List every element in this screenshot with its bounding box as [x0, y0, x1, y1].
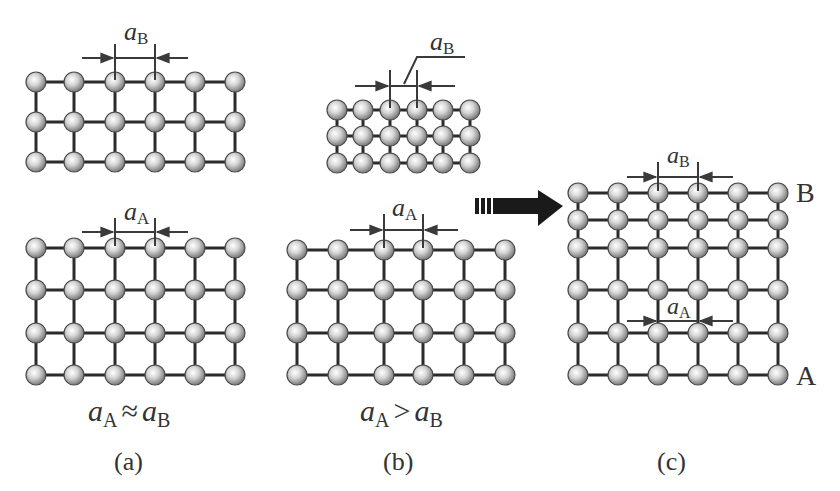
atom-icon — [495, 280, 515, 300]
svg-text:aA: aA — [392, 193, 418, 224]
atom-icon — [688, 365, 708, 385]
spacing-subscript: B — [137, 29, 148, 48]
atom-icon — [225, 238, 245, 258]
panel-a-bottom-spacing-marker: aA — [82, 197, 188, 246]
atom-icon — [64, 238, 84, 258]
atom-icon — [64, 365, 84, 385]
atom-icon — [327, 153, 347, 173]
transition-arrow-icon — [475, 190, 563, 226]
panel-a-relation: aA≈aB — [88, 394, 170, 431]
atom-icon — [728, 365, 748, 385]
atom-icon — [413, 365, 433, 385]
atom-icon — [688, 210, 708, 230]
atom-icon — [768, 280, 788, 300]
panel-a-top-spacing-marker: aB — [82, 17, 188, 80]
atom-icon — [433, 126, 453, 146]
atom-icon — [287, 240, 307, 260]
spacing-subscript: B — [679, 153, 690, 170]
atom-icon — [26, 72, 46, 92]
atom-icon — [225, 72, 245, 92]
atom-icon — [26, 323, 46, 343]
spacing-subscript: A — [405, 205, 418, 224]
panel-b-bottom-spacing-marker: aA — [350, 193, 458, 248]
atom-icon — [728, 280, 748, 300]
atom-icon — [353, 126, 373, 146]
atom-icon — [327, 126, 347, 146]
atom-icon — [568, 280, 588, 300]
atom-icon — [568, 210, 588, 230]
atom-icon — [433, 153, 453, 173]
atom-icon — [64, 280, 84, 300]
atom-icon — [495, 323, 515, 343]
atom-icon — [353, 153, 373, 173]
atom-icon — [26, 112, 46, 132]
atom-icon — [185, 112, 205, 132]
atom-icon — [768, 365, 788, 385]
atom-icon — [185, 72, 205, 92]
atom-icon — [105, 323, 125, 343]
atom-icon — [460, 100, 480, 120]
atom-icon — [495, 365, 515, 385]
spacing-symbol: a — [667, 142, 679, 168]
panel-c-interface-lattice — [568, 183, 788, 385]
atom-icon — [768, 323, 788, 343]
atom-icon — [407, 126, 427, 146]
atom-icon — [688, 323, 708, 343]
panel-b-bottom-lattice-a — [287, 240, 515, 385]
panel-b-caption: (b) — [383, 447, 413, 476]
atom-icon — [26, 238, 46, 258]
atom-icon — [568, 365, 588, 385]
atom-icon — [185, 365, 205, 385]
atom-icon — [688, 280, 708, 300]
atom-icon — [608, 210, 628, 230]
atom-icon — [728, 323, 748, 343]
atom-icon — [185, 280, 205, 300]
svg-text:aA: aA — [667, 293, 691, 321]
atom-icon — [287, 280, 307, 300]
atom-icon — [64, 112, 84, 132]
spacing-symbol: a — [124, 17, 137, 46]
atom-icon — [145, 112, 165, 132]
atom-icon — [328, 280, 348, 300]
atom-icon — [454, 323, 474, 343]
panel-b-top-spacing-marker: aB — [355, 27, 465, 108]
spacing-symbol: a — [667, 293, 679, 319]
atom-icon — [225, 112, 245, 132]
atom-icon — [374, 365, 394, 385]
atom-icon — [225, 365, 245, 385]
atom-icon — [648, 210, 668, 230]
atom-icon — [105, 365, 125, 385]
atom-icon — [460, 126, 480, 146]
panel-a-top-lattice-b — [26, 72, 245, 172]
atom-icon — [728, 210, 748, 230]
atom-icon — [454, 280, 474, 300]
atom-icon — [327, 100, 347, 120]
atom-icon — [287, 323, 307, 343]
atom-icon — [145, 365, 165, 385]
atom-icon — [225, 152, 245, 172]
atom-icon — [728, 183, 748, 203]
atom-icon — [374, 280, 394, 300]
atom-icon — [287, 365, 307, 385]
atom-icon — [608, 238, 628, 258]
panel-b-top-lattice-b — [327, 100, 480, 173]
layer-a-label: A — [796, 360, 817, 391]
atom-icon — [145, 323, 165, 343]
atom-icon — [648, 323, 668, 343]
lattice-mismatch-diagram: aB aA aB aA aB — [0, 0, 840, 491]
atom-icon — [568, 323, 588, 343]
spacing-subscript: A — [137, 209, 150, 228]
atom-icon — [568, 238, 588, 258]
atom-icon — [768, 210, 788, 230]
atom-icon — [728, 238, 748, 258]
atom-icon — [648, 280, 668, 300]
atom-icon — [105, 112, 125, 132]
atom-icon — [454, 365, 474, 385]
spacing-subscript: A — [679, 304, 691, 321]
atom-icon — [64, 72, 84, 92]
atom-icon — [105, 280, 125, 300]
atom-icon — [648, 365, 668, 385]
panel-a-bottom-lattice-a — [26, 238, 245, 385]
atom-icon — [495, 240, 515, 260]
svg-text:aB: aB — [124, 17, 148, 48]
